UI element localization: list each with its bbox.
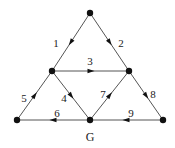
edge-label: 1 xyxy=(53,37,59,49)
arrowhead-icon xyxy=(106,38,114,46)
arrowhead-icon xyxy=(142,92,150,100)
node-mid-right xyxy=(126,68,132,74)
node-bottom-middle xyxy=(87,117,93,123)
edge-label: 6 xyxy=(54,107,60,119)
edge-label: 5 xyxy=(21,92,27,104)
arrowhead-icon xyxy=(88,69,95,73)
arrowhead-icon xyxy=(67,38,75,46)
edge-label: 9 xyxy=(128,107,134,119)
edge-label: 2 xyxy=(118,37,124,49)
node-mid-left xyxy=(49,68,55,74)
node-top xyxy=(87,10,93,16)
edge-label: 7 xyxy=(100,88,106,100)
edge-label: 8 xyxy=(150,88,156,100)
directed-graph-g: 123456789 G xyxy=(0,0,175,148)
edge-labels-layer: 123456789 xyxy=(21,37,156,119)
edge-label: 3 xyxy=(87,55,93,67)
graph-label: G xyxy=(86,130,95,144)
node-bottom-left xyxy=(14,117,20,123)
node-bottom-right xyxy=(160,117,166,123)
edge-label: 4 xyxy=(61,92,67,104)
edges-layer xyxy=(17,13,163,122)
